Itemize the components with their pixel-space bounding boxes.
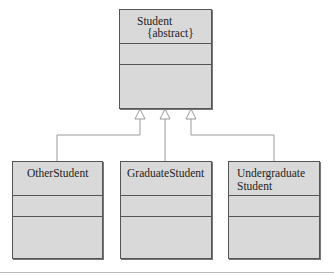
class-name: Student [137, 15, 172, 27]
attributes-divider [120, 43, 211, 44]
inheritance-arrow-icon [135, 109, 145, 119]
class-otherstudent: OtherStudent [12, 161, 103, 259]
class-name: OtherStudent [27, 167, 88, 179]
class-stereotype: {abstract} [147, 27, 194, 39]
class-name-line1: Undergraduate [237, 167, 305, 179]
class-student: Student {abstract} [119, 9, 212, 109]
class-graduatestudent: GraduateStudent [120, 161, 212, 259]
class-undergraduatestudent: Undergraduate Student [228, 161, 320, 259]
operations-divider [13, 216, 102, 217]
attributes-divider [121, 195, 211, 196]
attributes-divider [229, 195, 319, 196]
operations-divider [229, 216, 319, 217]
operations-divider [121, 216, 211, 217]
connector-undergraduatestudent [191, 119, 274, 161]
class-name-line2: Student [237, 180, 272, 192]
operations-divider [120, 64, 211, 65]
inheritance-arrow-icon [160, 109, 170, 119]
bottom-rule [0, 272, 334, 273]
connector-otherstudent [57, 119, 140, 161]
attributes-divider [13, 195, 102, 196]
inheritance-arrow-icon [186, 109, 196, 119]
class-name: GraduateStudent [127, 167, 204, 179]
